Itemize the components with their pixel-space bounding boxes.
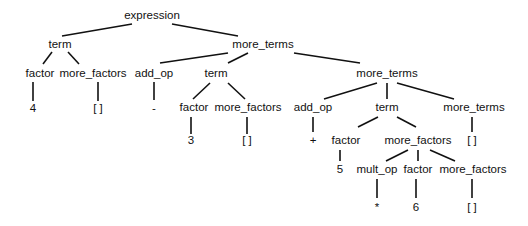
tree-edge xyxy=(358,117,378,127)
node-factor: factor xyxy=(332,135,361,147)
node-more-terms: more_terms xyxy=(232,39,293,51)
node-more-factors: more_factors xyxy=(384,135,451,147)
node-expression: expression xyxy=(124,10,180,22)
node-add-op: add_op xyxy=(135,68,173,80)
node-more-factors: more_factors xyxy=(439,164,506,176)
leaf-number-5: 5 xyxy=(337,164,343,176)
leaf-minus: - xyxy=(152,103,156,115)
leaf-number-4: 4 xyxy=(30,103,36,115)
tree-edge xyxy=(294,53,360,63)
node-factor: factor xyxy=(404,164,433,176)
node-more-factors: more_factors xyxy=(214,102,281,114)
leaf-plus: + xyxy=(310,135,317,147)
leaf-empty-list: [ ] xyxy=(467,202,477,214)
tree-edge xyxy=(397,83,454,99)
node-term: term xyxy=(205,68,228,80)
tree-edge xyxy=(430,150,455,161)
leaf-empty-list: [ ] xyxy=(93,103,103,115)
tree-edge xyxy=(324,83,377,99)
leaf-number-3: 3 xyxy=(188,135,194,147)
leaf-times: * xyxy=(375,202,379,214)
tree-edge xyxy=(397,117,416,127)
tree-edge xyxy=(386,150,408,161)
node-term: term xyxy=(376,102,399,114)
leaf-empty-list: [ ] xyxy=(467,135,477,147)
tree-edge xyxy=(62,24,132,36)
tree-edge xyxy=(68,52,79,64)
tree-edge xyxy=(228,83,245,99)
node-mult-op: mult_op xyxy=(357,164,398,176)
node-factor: factor xyxy=(180,102,209,114)
leaf-number-6: 6 xyxy=(413,202,419,214)
node-more-terms: more_terms xyxy=(443,102,504,114)
leaf-empty-list: [ ] xyxy=(242,135,252,147)
parse-tree-diagram: expression term more_terms factor more_f… xyxy=(0,0,528,226)
tree-edge xyxy=(228,53,248,63)
tree-edge xyxy=(193,83,210,99)
node-more-factors: more_factors xyxy=(59,68,126,80)
tree-edge xyxy=(172,24,238,36)
node-term: term xyxy=(49,39,72,51)
node-more-terms: more_terms xyxy=(356,68,417,80)
tree-edge xyxy=(43,52,52,64)
node-factor: factor xyxy=(26,68,55,80)
tree-edge xyxy=(160,53,228,63)
node-add-op: add_op xyxy=(294,102,332,114)
